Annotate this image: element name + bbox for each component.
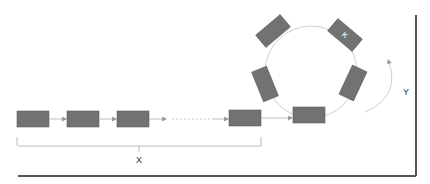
ring-block-left [252,66,279,102]
x-brace [17,137,261,146]
rotation-arrow [365,60,392,112]
ring-block-top-right: K [328,19,363,52]
ring-block-right [339,65,367,101]
chain-block-2 [67,111,99,127]
ring-block-bottom [293,107,325,123]
ring-block-top-left [256,15,291,48]
x-label: X [136,155,142,165]
chain-block-1 [17,111,49,127]
chain-block-4 [229,110,261,126]
y-label: Y [403,87,409,97]
diagram-canvas: X K Y [0,0,430,184]
chain-block-3 [117,111,149,127]
